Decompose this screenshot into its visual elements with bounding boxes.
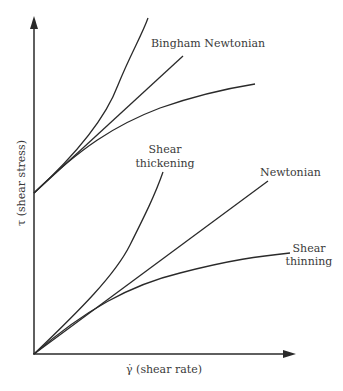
label-shear-thinning-1: Shear [293,242,327,255]
x-axis-label: γ̇ (shear rate) [126,363,202,376]
y-axis-label: τ (shear stress) [15,140,28,226]
y-axis [30,16,38,354]
curve-bingham-shear-thinning [34,84,255,193]
label-newtonian: Newtonian [260,166,321,179]
label-shear-thinning-2: thinning [286,255,333,268]
curve-shear-thickening [34,172,163,354]
label-shear-thickening-1: Shear [149,143,183,156]
label-bingham-newtonian: Bingham Newtonian [151,37,265,50]
rheology-diagram: Bingham Newtonian Shear thickening Newto… [0,0,343,391]
x-axis-arrow-icon [283,350,296,358]
curve-shear-thinning [34,253,290,354]
curve-newtonian [34,181,268,354]
y-axis-arrow-icon [30,16,38,29]
x-axis [33,350,296,358]
curve-bingham-shear-thickening [34,18,148,193]
label-shear-thickening-2: thickening [135,157,194,170]
